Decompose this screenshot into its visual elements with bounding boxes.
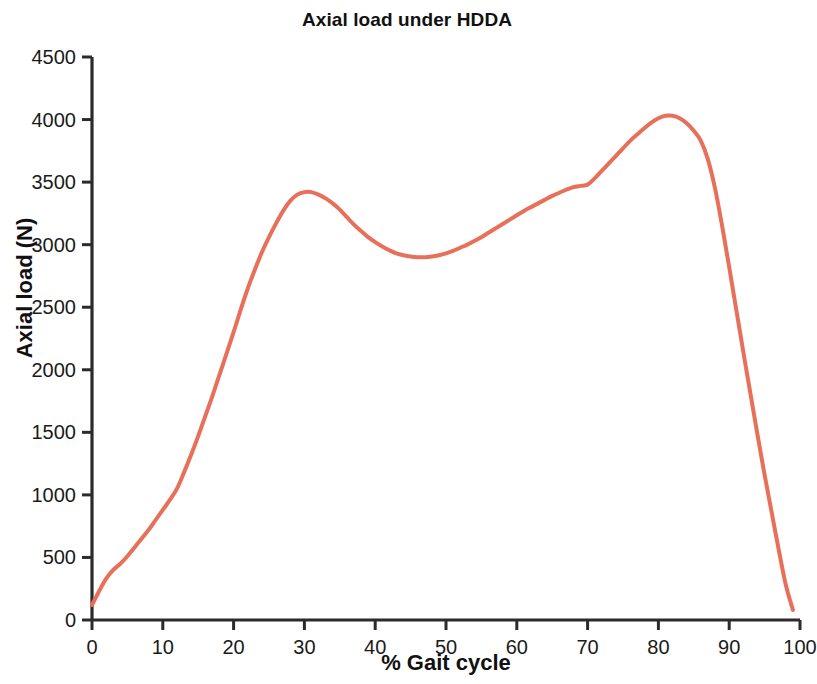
x-tick-label: 0 <box>86 636 97 659</box>
y-tick-label: 0 <box>0 609 76 632</box>
y-tick-label: 4500 <box>0 46 76 69</box>
x-tick-label: 10 <box>152 636 174 659</box>
x-tick-label: 70 <box>576 636 598 659</box>
x-tick-label: 20 <box>222 636 244 659</box>
data-line-axial-load <box>92 115 793 609</box>
x-tick-label: 80 <box>647 636 669 659</box>
x-tick-label: 30 <box>293 636 315 659</box>
x-tick-label: 40 <box>364 636 386 659</box>
x-tick-label: 50 <box>435 636 457 659</box>
y-tick-label: 3000 <box>0 233 76 256</box>
y-tick-label: 1000 <box>0 483 76 506</box>
x-tick-label: 90 <box>718 636 740 659</box>
y-tick-label: 2500 <box>0 296 76 319</box>
x-tick-label: 100 <box>783 636 816 659</box>
y-tick-label: 500 <box>0 546 76 569</box>
y-tick-label: 3500 <box>0 171 76 194</box>
y-tick-label: 1500 <box>0 421 76 444</box>
axis-lines <box>92 57 800 620</box>
x-tick-label: 60 <box>506 636 528 659</box>
y-tick-label: 2000 <box>0 358 76 381</box>
y-tick-label: 4000 <box>0 108 76 131</box>
data-series-group <box>92 115 793 609</box>
